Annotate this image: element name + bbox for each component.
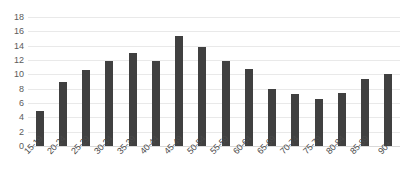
bars-layer [28,17,400,146]
y-axis: 024681012141618 [0,17,24,146]
y-axis-tick-label: 2 [19,127,24,136]
y-axis-tick-label: 6 [19,99,24,108]
y-axis-tick-label: 14 [14,41,24,50]
bar-chart: 024681012141618 15-1920-2425-2930-3435-3… [0,0,411,194]
y-axis-tick-label: 12 [14,56,24,65]
y-axis-tick-label: 8 [19,84,24,93]
y-axis-tick-label: 16 [14,27,24,36]
y-axis-tick-label: 10 [14,70,24,79]
bar [175,36,183,146]
y-axis-tick-label: 4 [19,113,24,122]
bar [129,53,137,146]
y-axis-tick-label: 18 [14,13,24,22]
bar [384,74,392,146]
bar [198,47,206,146]
x-axis: 15-1920-2425-2930-3435-3940-4445-4950-54… [28,147,400,194]
